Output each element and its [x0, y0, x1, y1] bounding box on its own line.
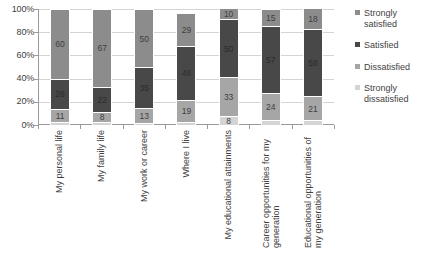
- x-axis-category-label: My family life: [96, 130, 106, 182]
- bar-segment[interactable]: 29: [176, 13, 196, 47]
- bar-value-label: 57: [262, 56, 280, 65]
- bar-value-label: 11: [51, 111, 69, 120]
- legend-label: Satisfied: [364, 40, 399, 51]
- bar-value-label: 18: [304, 15, 322, 24]
- bar-segment[interactable]: 24: [261, 93, 281, 121]
- y-axis-tick-label: 20%: [17, 97, 34, 106]
- stacked-bar[interactable]: 8335010: [219, 8, 239, 125]
- x-axis-tick: [165, 125, 166, 129]
- bar-slot: 382267: [81, 9, 123, 125]
- stacked-bar[interactable]: 382267: [92, 9, 112, 125]
- x-label-slot: Where I live: [165, 130, 207, 250]
- x-axis-category-label: Career opportunities for my generation: [261, 130, 281, 248]
- legend-swatch-icon: [355, 42, 360, 47]
- bar-slot: 2133550: [123, 9, 165, 125]
- y-axis-tick-label: 40%: [17, 74, 34, 83]
- stacked-bar[interactable]: 4215818: [303, 8, 323, 125]
- plot-area-wrapper: 0%20%40%60%80%100% 311266038226721335503…: [0, 0, 340, 253]
- bar-segment[interactable]: 50: [219, 19, 239, 77]
- stacked-bar[interactable]: 4245715: [261, 9, 281, 125]
- legend-label: Strongly dissatisfied: [364, 83, 425, 104]
- bar-value-label: 8: [93, 113, 111, 122]
- x-label-slot: My work or career: [123, 130, 165, 250]
- legend-item[interactable]: Dissatisfied: [355, 62, 425, 73]
- stacked-bar[interactable]: 3194629: [176, 13, 196, 125]
- x-axis-category-label: Where I live: [181, 130, 191, 178]
- bar-segment[interactable]: 8: [219, 116, 239, 125]
- bar-value-label: 15: [262, 14, 280, 23]
- legend-item[interactable]: Strongly satisfied: [355, 8, 425, 29]
- x-label-slot: My educational attainments: [207, 130, 249, 250]
- x-label-slot: Educational opportunities of my generati…: [292, 130, 334, 250]
- bar-segment[interactable]: 58: [303, 29, 323, 96]
- bar-value-label: 10: [220, 10, 238, 19]
- bar-segment[interactable]: 60: [50, 9, 70, 79]
- bar-slot: 3194629: [165, 9, 207, 125]
- bar-segment[interactable]: 10: [219, 8, 239, 20]
- x-axis-category-label: My work or career: [139, 130, 149, 202]
- bar-segment[interactable]: 67: [92, 9, 112, 87]
- bar-segment[interactable]: 21: [303, 96, 323, 120]
- bar-segment[interactable]: 18: [303, 8, 323, 29]
- bar-value-label: 60: [51, 40, 69, 49]
- bar-slot: 3112660: [39, 9, 81, 125]
- y-axis-tick-label: 60%: [17, 51, 34, 60]
- bar-segment[interactable]: 15: [261, 9, 281, 26]
- legend-label: Strongly satisfied: [364, 8, 425, 29]
- bar-segment[interactable]: 57: [261, 26, 281, 92]
- legend: Strongly satisfiedSatisfiedDissatisfiedS…: [355, 8, 425, 115]
- bar-slot: 8335010: [208, 9, 250, 125]
- bar-value-label: 29: [177, 26, 195, 35]
- bar-value-label: 22: [93, 96, 111, 105]
- stacked-bar[interactable]: 2133550: [134, 9, 154, 125]
- bar-segment[interactable]: 50: [134, 9, 154, 67]
- bar-segment[interactable]: 19: [176, 100, 196, 122]
- bar-slot: 4215818: [292, 9, 334, 125]
- bar-segment[interactable]: 11: [50, 109, 70, 122]
- bar-segment[interactable]: 13: [134, 108, 154, 123]
- bar-value-label: 13: [135, 111, 153, 120]
- bar-value-label: 67: [93, 44, 111, 53]
- bar-segment[interactable]: 26: [50, 79, 70, 109]
- x-axis-labels: My personal lifeMy family lifeMy work or…: [38, 130, 334, 250]
- bar-segment[interactable]: 22: [92, 87, 112, 113]
- legend-item[interactable]: Strongly dissatisfied: [355, 83, 425, 104]
- bar-value-label: 35: [135, 84, 153, 93]
- plot-area: 3112660382267213355031946298335010424571…: [38, 9, 334, 125]
- stacked-bar[interactable]: 3112660: [50, 9, 70, 125]
- y-axis: 0%20%40%60%80%100%: [0, 0, 36, 135]
- bar-value-label: 46: [177, 69, 195, 78]
- bar-value-label: 50: [220, 45, 238, 54]
- x-label-slot: Career opportunities for my generation: [249, 130, 291, 250]
- y-axis-tick-label: 100%: [12, 5, 34, 14]
- bar-slot: 4245715: [250, 9, 292, 125]
- x-axis-tick: [292, 125, 293, 129]
- x-axis-tick: [123, 125, 124, 129]
- bar-value-label: 58: [304, 59, 322, 68]
- legend-item[interactable]: Satisfied: [355, 40, 425, 51]
- legend-swatch-icon: [355, 64, 360, 69]
- bar-segment[interactable]: 33: [219, 77, 239, 115]
- x-label-slot: My family life: [80, 130, 122, 250]
- stacked-bar-chart: 0%20%40%60%80%100% 311266038226721335503…: [0, 0, 425, 253]
- x-axis-tick: [80, 125, 81, 129]
- bar-value-label: 21: [304, 104, 322, 113]
- bar-value-label: 33: [220, 93, 238, 102]
- y-axis-tick-label: 0%: [21, 121, 34, 130]
- bar-segment[interactable]: 35: [134, 67, 154, 108]
- bar-value-label: 26: [51, 90, 69, 99]
- x-axis-category-label: My educational attainments: [223, 130, 233, 240]
- legend-label: Dissatisfied: [364, 62, 410, 73]
- bar-value-label: 8: [220, 117, 238, 126]
- legend-swatch-icon: [355, 10, 360, 15]
- x-axis-category-label: Educational opportunities of my generati…: [303, 130, 323, 248]
- bar-value-label: 19: [177, 107, 195, 116]
- x-axis-tick: [207, 125, 208, 129]
- bar-segment[interactable]: 8: [92, 112, 112, 121]
- bar-segment[interactable]: 46: [176, 46, 196, 99]
- x-axis-tick: [334, 125, 335, 129]
- x-label-slot: My personal life: [38, 130, 80, 250]
- bar-series-container: 3112660382267213355031946298335010424571…: [39, 9, 334, 125]
- bar-value-label: 24: [262, 103, 280, 112]
- x-axis-tick: [38, 125, 39, 129]
